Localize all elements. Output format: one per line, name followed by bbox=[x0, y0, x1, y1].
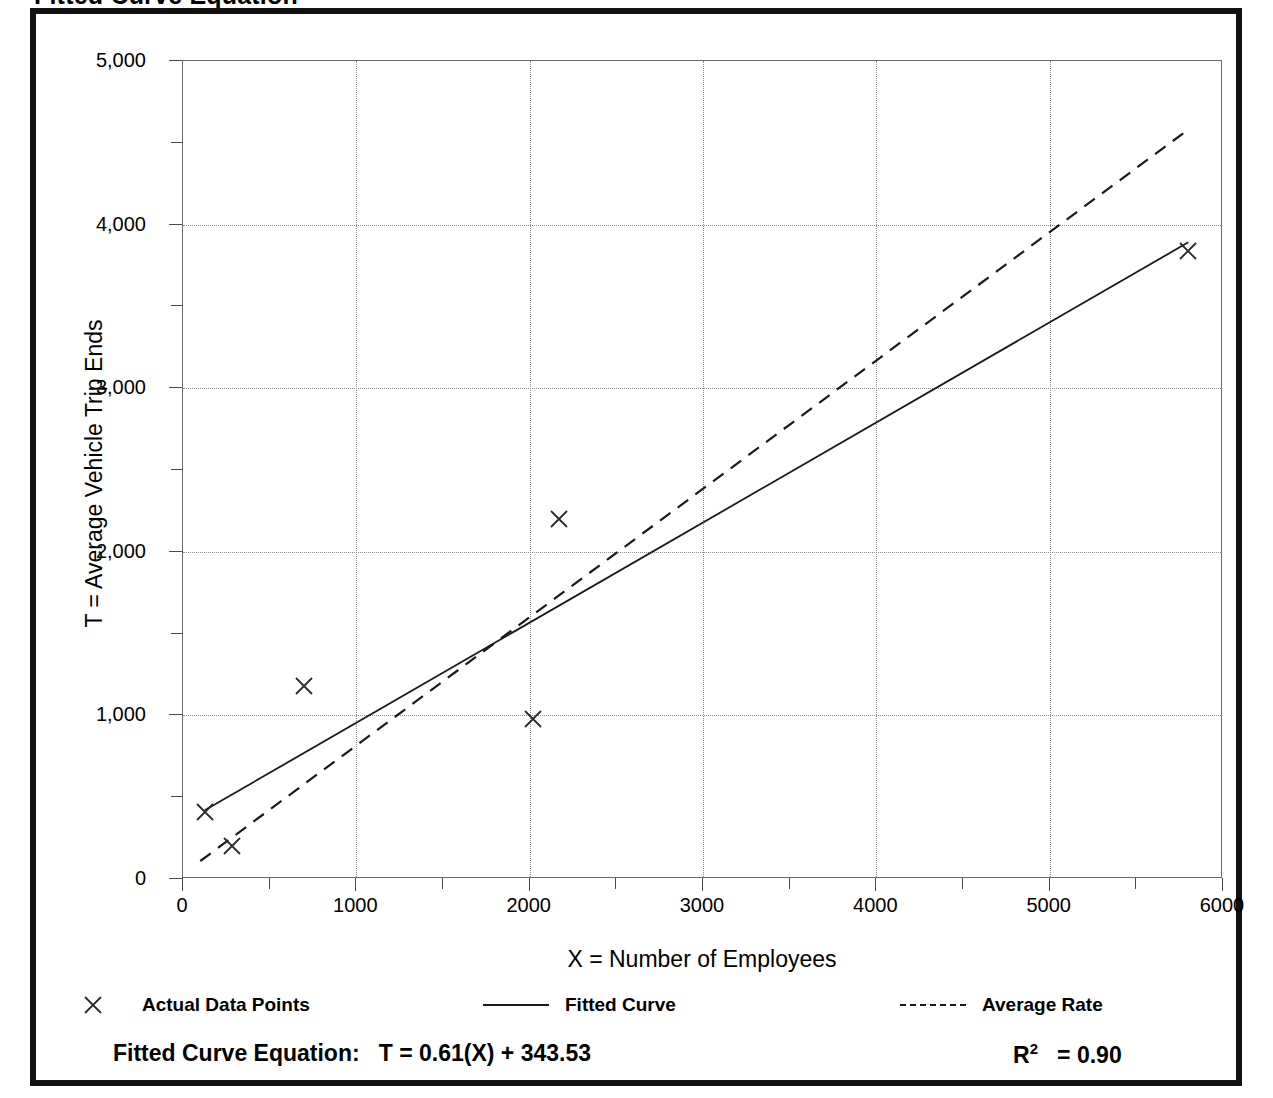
y-tick-major bbox=[169, 878, 182, 879]
x-tick-label: 1000 bbox=[333, 894, 378, 917]
x-tick-minor bbox=[1135, 878, 1136, 889]
x-tick-minor bbox=[962, 878, 963, 889]
x-tick-major bbox=[1222, 878, 1223, 891]
x-tick-minor bbox=[269, 878, 270, 889]
y-tick-major bbox=[169, 551, 182, 552]
average-rate-line bbox=[200, 130, 1188, 862]
x-tick-minor bbox=[789, 878, 790, 889]
equation-value: T = 0.61(X) + 343.53 bbox=[379, 1040, 591, 1066]
r-squared-value: R2 = 0.90 bbox=[1013, 1040, 1122, 1069]
data-point-marker bbox=[194, 801, 216, 823]
legend-item-fitted-curve: Fitted Curve bbox=[481, 990, 676, 1020]
x-tick-minor bbox=[615, 878, 616, 889]
legend-item-average-rate: Average Rate bbox=[898, 990, 1103, 1020]
x-tick-label: 0 bbox=[176, 894, 187, 917]
x-tick-label: 5000 bbox=[1026, 894, 1071, 917]
y-tick-major bbox=[169, 714, 182, 715]
data-point-marker bbox=[1177, 240, 1199, 262]
y-tick-minor bbox=[171, 305, 182, 306]
data-point-marker bbox=[293, 675, 315, 697]
x-tick-label: 3000 bbox=[680, 894, 725, 917]
legend-label: Actual Data Points bbox=[142, 994, 310, 1016]
x-tick-major bbox=[875, 878, 876, 891]
x-tick-major bbox=[529, 878, 530, 891]
x-marker-icon bbox=[58, 993, 128, 1017]
legend-item-actual-data-points: Actual Data Points bbox=[58, 990, 310, 1020]
y-tick-major bbox=[169, 224, 182, 225]
x-tick-minor bbox=[442, 878, 443, 889]
x-tick-label: 6000 bbox=[1200, 894, 1245, 917]
data-point-marker bbox=[221, 835, 243, 857]
y-tick-major bbox=[169, 387, 182, 388]
r-value: = 0.90 bbox=[1057, 1042, 1122, 1068]
y-tick-minor bbox=[171, 796, 182, 797]
fitted-curve-line bbox=[205, 242, 1189, 810]
y-tick-minor bbox=[171, 633, 182, 634]
data-point-marker bbox=[522, 708, 544, 730]
solid-line-icon bbox=[481, 1004, 551, 1006]
series-layer bbox=[183, 61, 1223, 879]
r-symbol: R bbox=[1013, 1042, 1030, 1068]
x-tick-major bbox=[182, 878, 183, 891]
y-tick-label: 0 bbox=[135, 867, 146, 890]
chart-footer: Fitted Curve Equation: T = 0.61(X) + 343… bbox=[58, 1040, 1218, 1076]
dashed-line-icon bbox=[898, 1004, 968, 1006]
legend-label: Average Rate bbox=[982, 994, 1103, 1016]
fitted-curve-equation: Fitted Curve Equation: T = 0.61(X) + 343… bbox=[113, 1040, 591, 1067]
legend-label: Fitted Curve bbox=[565, 994, 676, 1016]
plot-area bbox=[182, 60, 1222, 878]
x-tick-label: 4000 bbox=[853, 894, 898, 917]
scatter-chart: 0 1,000 2,000 3,000 4,000 5,000 0 1000 2… bbox=[0, 0, 1273, 1098]
chart-legend: Actual Data Points Fitted Curve Average … bbox=[58, 990, 1218, 1024]
x-tick-major bbox=[702, 878, 703, 891]
x-tick-label: 2000 bbox=[506, 894, 551, 917]
y-tick-minor bbox=[171, 142, 182, 143]
y-tick-minor bbox=[171, 469, 182, 470]
y-tick-label: 5,000 bbox=[96, 49, 146, 72]
data-point-marker bbox=[548, 508, 570, 530]
x-axis-title: X = Number of Employees bbox=[182, 946, 1222, 973]
equation-label: Fitted Curve Equation: bbox=[113, 1040, 360, 1066]
r-exponent: 2 bbox=[1030, 1040, 1038, 1057]
x-tick-major bbox=[1049, 878, 1050, 891]
y-tick-major bbox=[169, 60, 182, 61]
y-axis-title: T = Average Vehicle Trip Ends bbox=[81, 194, 108, 754]
x-tick-major bbox=[355, 878, 356, 891]
